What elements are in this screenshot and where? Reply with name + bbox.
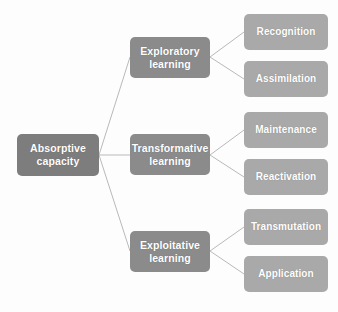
node-label-transformative-learning: Transformative learning xyxy=(129,142,212,168)
node-label-assimilation: Assimilation xyxy=(253,73,320,85)
node-transmutation[interactable]: Transmutation xyxy=(244,209,328,245)
node-recognition[interactable]: Recognition xyxy=(244,14,328,50)
node-label-exploratory-learning: Exploratory learning xyxy=(137,45,202,71)
node-label-application: Application xyxy=(255,268,317,280)
edge-root-exploitative xyxy=(99,155,130,251)
node-label-absorptive-capacity: Absorptive capacity xyxy=(27,142,89,168)
node-maintenance[interactable]: Maintenance xyxy=(244,112,328,148)
node-reactivation[interactable]: Reactivation xyxy=(244,159,328,195)
absorptive-capacity-diagram: Absorptive capacityExploratory learningR… xyxy=(0,0,338,312)
edge-transformative-reactivation xyxy=(210,155,244,177)
node-assimilation[interactable]: Assimilation xyxy=(244,61,328,97)
node-label-recognition: Recognition xyxy=(254,26,319,38)
node-application[interactable]: Application xyxy=(244,256,328,292)
node-label-transmutation: Transmutation xyxy=(248,221,324,233)
edge-exploitative-transmutation xyxy=(210,227,244,251)
edge-exploitative-application xyxy=(210,251,244,274)
node-label-maintenance: Maintenance xyxy=(252,124,320,136)
edge-transformative-maintenance xyxy=(210,130,244,155)
edge-root-exploratory xyxy=(99,57,130,155)
node-label-exploitative-learning: Exploitative learning xyxy=(137,239,203,265)
node-absorptive-capacity[interactable]: Absorptive capacity xyxy=(17,134,99,176)
edge-exploratory-recognition xyxy=(210,32,244,57)
node-exploitative-learning[interactable]: Exploitative learning xyxy=(130,231,210,272)
edge-exploratory-assimilation xyxy=(210,57,244,79)
node-transformative-learning[interactable]: Transformative learning xyxy=(130,134,210,175)
node-label-reactivation: Reactivation xyxy=(253,171,320,183)
node-exploratory-learning[interactable]: Exploratory learning xyxy=(130,37,210,78)
